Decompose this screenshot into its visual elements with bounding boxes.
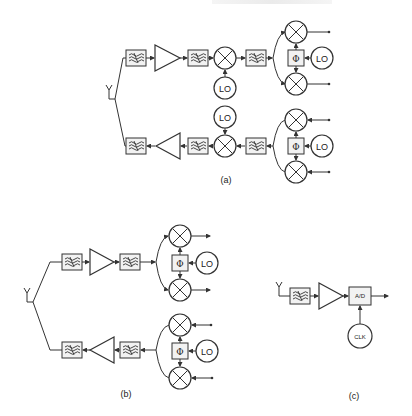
bandpass-filter-icon [246, 50, 266, 66]
lo-label: LO [219, 84, 231, 94]
lo-label: LO [201, 347, 213, 357]
amplifier-icon [90, 249, 114, 275]
bandpass-filter-icon [120, 254, 140, 270]
mixer-icon [169, 279, 191, 301]
bandpass-filter-icon [62, 254, 82, 270]
adc-label: A/D [355, 293, 366, 299]
mixer-icon [214, 135, 236, 157]
mixer-icon [169, 314, 191, 336]
lo-label: LO [219, 113, 231, 123]
phase-label: Φ [176, 347, 183, 357]
transceiver-diagram: LO Φ LO LO Φ [0, 0, 412, 416]
lo-label: LO [201, 259, 213, 269]
caption-c: (c) [349, 391, 360, 401]
mixer-icon [285, 109, 307, 131]
caption-b: (b) [121, 389, 132, 399]
bandpass-filter-icon [62, 342, 82, 358]
figure-c: A/D CLK (c) [276, 282, 388, 401]
bandpass-filter-icon [290, 288, 310, 304]
caption-a: (a) [221, 175, 232, 185]
mixer-icon [285, 161, 307, 183]
bandpass-filter-icon [120, 342, 140, 358]
mixer-icon [285, 21, 307, 43]
mixer-icon [169, 225, 191, 247]
clock-label: CLK [354, 334, 366, 340]
amplifier-icon [90, 337, 114, 363]
bandpass-filter-icon [246, 138, 266, 154]
amplifier-icon [155, 45, 180, 71]
amplifier-icon [156, 133, 180, 159]
antenna-icon [24, 288, 33, 302]
bandpass-filter-icon [188, 50, 208, 66]
amplifier-icon [319, 283, 343, 309]
bandpass-filter-icon [188, 138, 208, 154]
mixer-icon [214, 47, 236, 69]
bandpass-filter-icon [126, 50, 146, 66]
phase-label: Φ [176, 259, 183, 269]
antenna-icon [106, 85, 115, 99]
antenna-icon [276, 282, 285, 296]
figure-b: Φ LO Φ LO (b) [24, 225, 218, 399]
phase-label: Φ [292, 142, 299, 152]
lo-label: LO [316, 54, 328, 64]
phase-label: Φ [292, 54, 299, 64]
mixer-icon [285, 73, 307, 95]
bandpass-filter-icon [126, 138, 146, 154]
mixer-icon [169, 367, 191, 389]
figure-a: LO Φ LO LO Φ [106, 21, 333, 185]
lo-label: LO [316, 142, 328, 152]
